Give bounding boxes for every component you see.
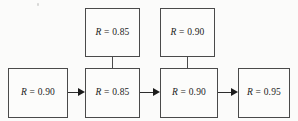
equals-sign: = bbox=[30, 87, 36, 97]
reliability-value: 0.85 bbox=[112, 87, 129, 97]
equals-sign: = bbox=[256, 87, 262, 97]
reliability-value: 0.85 bbox=[112, 27, 129, 37]
connector-parallel-stage-3 bbox=[187, 57, 188, 68]
reliability-symbol: R bbox=[21, 87, 27, 97]
block-stage-3-redundant[interactable]: R = 0.90 bbox=[160, 8, 215, 57]
block-label-stage-2-redundant: R = 0.85 bbox=[95, 28, 129, 38]
equals-sign: = bbox=[104, 27, 110, 37]
reliability-value: 0.95 bbox=[264, 87, 281, 97]
scan-artifact-speck bbox=[37, 3, 39, 6]
reliability-symbol: R bbox=[170, 27, 176, 37]
block-label-stage-2-main: R = 0.85 bbox=[95, 88, 129, 98]
equals-sign: = bbox=[104, 87, 110, 97]
connector-parallel-stage-2 bbox=[112, 57, 113, 68]
block-label-stage-3-redundant: R = 0.90 bbox=[170, 28, 204, 38]
arrow-head-icon bbox=[231, 88, 238, 96]
arrow-shaft bbox=[140, 92, 154, 93]
block-label-stage-4: R = 0.95 bbox=[247, 88, 281, 98]
reliability-symbol: R bbox=[172, 87, 178, 97]
block-stage-2-main[interactable]: R = 0.85 bbox=[85, 68, 140, 118]
block-stage-3-main[interactable]: R = 0.90 bbox=[160, 68, 218, 118]
reliability-value: 0.90 bbox=[187, 27, 204, 37]
arrow-shaft bbox=[218, 92, 232, 93]
reliability-value: 0.90 bbox=[38, 87, 55, 97]
arrow-head-icon bbox=[153, 88, 160, 96]
block-stage-2-redundant[interactable]: R = 0.85 bbox=[85, 8, 140, 57]
reliability-symbol: R bbox=[95, 27, 101, 37]
block-stage-4[interactable]: R = 0.95 bbox=[238, 68, 290, 118]
arrow-head-icon bbox=[78, 88, 85, 96]
reliability-symbol: R bbox=[95, 87, 101, 97]
block-stage-1[interactable]: R = 0.90 bbox=[8, 68, 68, 118]
block-label-stage-1: R = 0.90 bbox=[21, 88, 55, 98]
equals-sign: = bbox=[181, 87, 187, 97]
reliability-symbol: R bbox=[247, 87, 253, 97]
equals-sign: = bbox=[179, 27, 185, 37]
block-label-stage-3-main: R = 0.90 bbox=[172, 88, 206, 98]
reliability-value: 0.90 bbox=[189, 87, 206, 97]
reliability-block-diagram: R = 0.85 R = 0.90 R = 0.90 R = 0.85 R = bbox=[0, 0, 298, 121]
